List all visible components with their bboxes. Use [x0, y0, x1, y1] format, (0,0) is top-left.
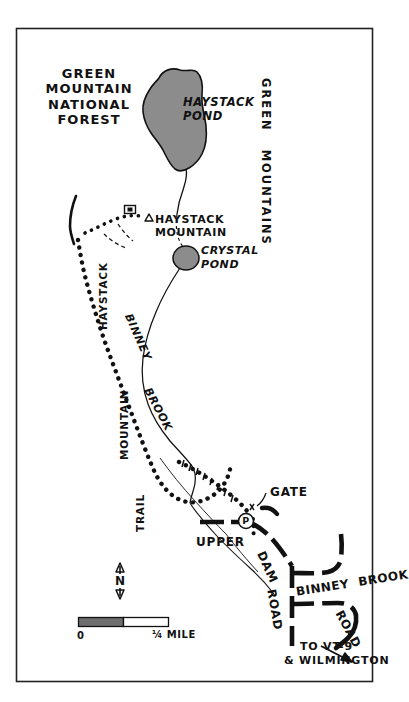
north-arrow-letter: N	[114, 574, 127, 588]
label-to-wilmington: & WILMINGTON	[284, 655, 389, 668]
label-haystack-mountain-peak: HAYSTACK MOUNTAIN	[155, 213, 227, 239]
parking-symbol-letter: P	[239, 515, 253, 526]
label-green-mountains: GREEN MOUNTAINS	[258, 78, 272, 246]
scale-bar-filled-half	[79, 618, 124, 627]
scale-bar-empty-half	[124, 618, 169, 627]
label-haystack-trail-part2: MOUNTAIN	[118, 390, 130, 460]
viewpoint-box-inner	[128, 208, 133, 212]
label-to-vt9: TO VT-9	[300, 641, 353, 654]
label-haystack-trail-part3: TRAIL	[134, 494, 146, 532]
scale-bar-max-label: ¼ MILE	[152, 629, 196, 641]
label-gate: GATE	[270, 485, 308, 499]
crystal-pond-shape	[173, 246, 199, 270]
label-green-mountain-national-forest: GREEN MOUNTAIN NATIONAL FOREST	[34, 66, 144, 127]
scale-bar-zero-label: 0	[77, 630, 85, 642]
label-haystack-trail-part1: HAYSTACK	[97, 262, 109, 330]
label-crystal-pond: CRYSTAL POND	[201, 244, 259, 272]
label-haystack-pond: HAYSTACK POND	[183, 95, 254, 124]
label-upper: UPPER	[196, 535, 245, 549]
